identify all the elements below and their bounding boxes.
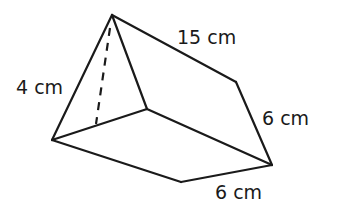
label-base: 6 cm <box>215 181 262 203</box>
edge-middle-right <box>147 109 272 165</box>
label-height: 4 cm <box>16 76 63 98</box>
triangular-prism-diagram: 4 cm 15 cm 6 cm 6 cm <box>0 0 337 213</box>
label-side: 6 cm <box>262 107 309 129</box>
edge-apex-middle <box>112 15 147 109</box>
edge-left-bottom <box>52 140 181 182</box>
edge-left-middle <box>52 109 147 140</box>
edge-bottom-right <box>181 165 272 182</box>
label-length: 15 cm <box>177 26 236 48</box>
